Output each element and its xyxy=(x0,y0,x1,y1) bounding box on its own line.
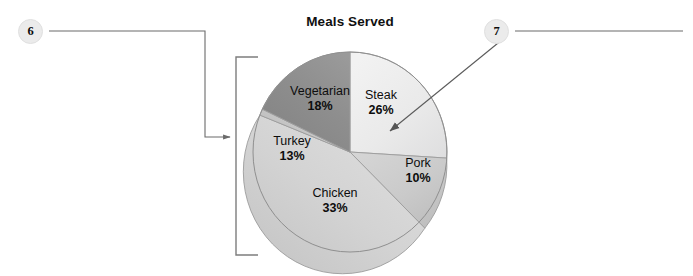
chart-title: Meals Served xyxy=(243,14,457,29)
pie-chart-figure: Meals Served Steak 26% Pork 10% Chicken … xyxy=(0,0,693,276)
figure-graphics xyxy=(0,0,693,276)
callout-6-leader-line xyxy=(49,31,230,137)
pie-slices xyxy=(243,52,447,274)
pie-slice-steak[interactable] xyxy=(350,52,447,158)
callout-marker-6[interactable]: 6 xyxy=(18,19,43,44)
callout-marker-7[interactable]: 7 xyxy=(484,19,509,44)
